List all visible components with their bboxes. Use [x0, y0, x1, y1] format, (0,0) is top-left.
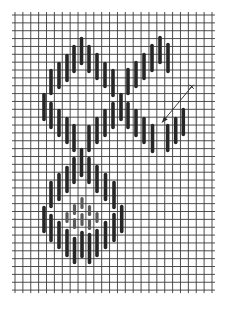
stitch-chart: x — [0, 0, 225, 313]
